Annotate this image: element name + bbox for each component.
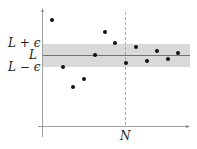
point [103,30,107,34]
point [166,57,170,61]
label-threshold-n: N [120,130,131,142]
y-axis-arrow-icon [41,8,44,12]
point [155,49,159,53]
point [176,51,180,55]
point [93,53,97,57]
point [124,61,128,65]
point [134,45,138,49]
point [113,41,117,45]
point [61,65,65,69]
label-lower-bound: L − ϵ [8,61,40,73]
point [71,85,75,89]
point [50,18,54,22]
x-axis-arrow-icon [186,125,190,128]
point [145,59,149,63]
point [82,77,86,81]
convergence-figure: L + ϵ L L − ϵ N [0,0,197,149]
